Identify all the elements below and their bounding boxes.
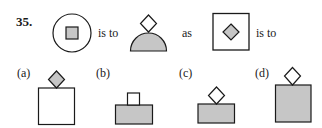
option-c-figure[interactable]: [198, 87, 235, 123]
option-d-figure[interactable]: [276, 68, 312, 123]
figure-circle-with-square: [53, 14, 91, 52]
figure-diamond-on-semicircle: [131, 15, 167, 51]
option-a-figure[interactable]: [39, 71, 75, 125]
option-b-figure[interactable]: [116, 93, 153, 124]
figures-canvas: [0, 0, 322, 128]
figure-square-with-diamond: [213, 14, 249, 51]
